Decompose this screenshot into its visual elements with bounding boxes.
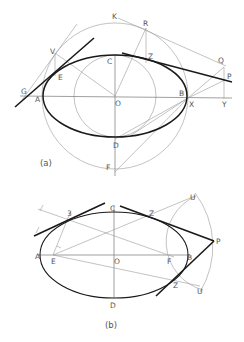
- line-X-D: [115, 98, 188, 139]
- label-P-b: P: [216, 237, 221, 246]
- label-Y: Y: [221, 100, 227, 109]
- label-B: B: [179, 89, 184, 98]
- label-A: A: [35, 95, 41, 104]
- label-D-b: D: [110, 301, 116, 310]
- tangent-P-Z-bottom: [156, 241, 214, 296]
- label-B-b: B: [187, 253, 192, 262]
- figure-b: C 3 Z U P A E O F B Z U D (b): [34, 193, 221, 330]
- label-D: D: [113, 141, 119, 150]
- label-Q: Q: [218, 56, 224, 65]
- label-A-b: A: [35, 252, 41, 261]
- label-U-top: U: [190, 193, 196, 202]
- line-K-Q: [118, 18, 226, 66]
- label-F: F: [106, 163, 110, 172]
- tick-mark: [36, 227, 39, 233]
- figure-a: K R V C Z Q P E G A O B X Y D F (a): [15, 12, 232, 176]
- label-Z-bottom: Z: [173, 281, 178, 290]
- tick-mark: [57, 246, 61, 248]
- label-V: V: [50, 47, 56, 56]
- label-O: O: [115, 99, 121, 108]
- label-Z-top: Z: [149, 209, 154, 218]
- label-E: E: [58, 73, 63, 82]
- label-X: X: [189, 100, 194, 109]
- tangent-at-3: [34, 203, 105, 236]
- tangent-P-Z-top: [120, 206, 214, 241]
- label-R: R: [143, 19, 148, 28]
- label-C: C: [107, 57, 112, 66]
- label-P: P: [227, 72, 232, 81]
- line-R-O: [115, 28, 146, 96]
- caption-b: (b): [105, 320, 117, 330]
- label-3: 3: [67, 209, 72, 218]
- major-axis: [20, 96, 232, 98]
- label-G: G: [21, 87, 27, 96]
- label-K: K: [112, 12, 118, 21]
- line-V-O: [55, 53, 115, 96]
- label-O-b: O: [114, 257, 120, 266]
- label-Z: Z: [148, 52, 153, 61]
- label-E-b: E: [51, 257, 56, 266]
- line-P-X: [188, 80, 225, 98]
- arc-outer: [195, 193, 213, 292]
- label-F-b: F: [167, 257, 171, 266]
- caption-a: (a): [40, 158, 52, 168]
- label-U-bottom: U: [197, 287, 203, 296]
- line-V-G: [22, 24, 77, 100]
- label-C-b: C: [110, 204, 115, 213]
- ellipse-tangent-diagram: K R V C Z Q P E G A O B X Y D F (a): [0, 0, 244, 342]
- arc-inner: [166, 196, 203, 290]
